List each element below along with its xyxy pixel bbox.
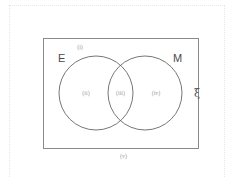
region-label-i: (i)	[77, 44, 83, 51]
region-label-iii: (iii)	[116, 90, 125, 97]
set-e-label: E	[58, 52, 65, 64]
region-label-v: (v)	[120, 153, 127, 160]
universe-symbol: ξ	[194, 87, 200, 100]
venn-diagram: E M ξ (i) (ii) (iii) (iv) (v)	[0, 0, 233, 178]
set-m-label: M	[173, 52, 182, 64]
region-label-ii: (ii)	[82, 90, 89, 97]
region-label-iv: (iv)	[152, 90, 161, 97]
